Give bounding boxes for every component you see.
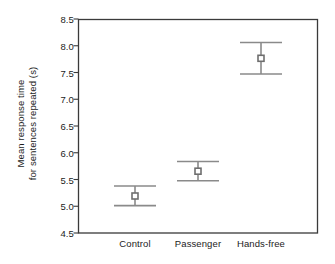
plot-frame [79,20,318,234]
x-tick-label-hands-free: Hands-free [237,238,285,249]
x-tick-label-control: Control [119,238,150,249]
x-tick-label-passenger: Passenger [175,238,221,249]
data-point-hands-free [258,55,264,61]
chart-figure: Mean response time for sentences repeate… [0,0,335,264]
data-point-passenger [195,168,201,174]
data-point-control [132,193,138,199]
plot-canvas [0,0,335,264]
y-axis-ticks [74,19,79,233]
